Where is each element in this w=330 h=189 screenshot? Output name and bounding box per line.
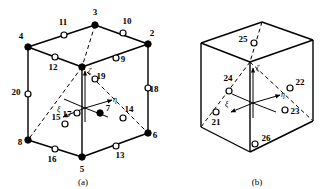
edge-b-top-right: [262, 22, 313, 40]
axis-label-eta-b: η: [281, 90, 285, 99]
panel-b-node-24: [226, 88, 232, 94]
panel-a-edges: [28, 25, 148, 157]
edge-b-back-left: [201, 62, 250, 127]
panel-a-node-label-9: 9: [121, 54, 126, 64]
panel-b-axes: [231, 68, 280, 118]
panel-a-node-label-17: 17: [63, 109, 73, 119]
panel-a-node-9: [113, 55, 119, 61]
panel-a-node-label-11: 11: [59, 17, 68, 27]
panel-a-group: ζ η ξ 234567891011121314151617181920 (a): [12, 7, 160, 187]
panel-a-node-2: [145, 41, 151, 47]
panel-a-node-label-7: 7: [106, 103, 111, 113]
panel-a-node-7: [97, 110, 103, 116]
panel-a-node-label-16: 16: [48, 154, 58, 164]
panel-a-node-5: [79, 154, 85, 160]
panel-b-node-label-26: 26: [262, 133, 272, 143]
panel-a-caption: (a): [78, 177, 88, 187]
panel-a-node-label-5: 5: [80, 164, 85, 174]
panel-a-node-label-2: 2: [150, 28, 155, 38]
panel-a-hidden-edges: [28, 25, 148, 140]
panel-b-node-label-24: 24: [224, 73, 234, 83]
figure-svg: ζ η ξ 234567891011121314151617181920 (a): [0, 0, 330, 189]
panel-a-node-label-15: 15: [52, 112, 62, 122]
axis-label-xi-b: ξ: [225, 100, 229, 109]
panel-b-node-21: [213, 109, 219, 115]
panel-a-node-label-13: 13: [116, 150, 126, 160]
panel-b-node-22: [287, 85, 293, 91]
edge-3-1: [82, 25, 95, 67]
panel-b-node-label-21: 21: [212, 117, 222, 127]
panel-b-node-23: [282, 107, 288, 113]
panel-a-node-4: [25, 44, 31, 50]
panel-a-node-label-3: 3: [93, 7, 98, 17]
panel-b-caption: (b): [252, 177, 263, 187]
panel-a-node-20: [25, 91, 31, 97]
panel-a-node-16: [52, 146, 58, 152]
axis-eta-b: [253, 95, 280, 103]
panel-b-node-label-23: 23: [291, 106, 301, 116]
panel-a-node-15: [62, 121, 68, 127]
figure-container: ζ η ξ 234567891011121314151617181920 (a): [0, 0, 330, 189]
axis-label-eta-a: η: [113, 95, 117, 104]
panel-b-node-26: [252, 141, 258, 147]
axis-neg-xi-b: [253, 103, 276, 112]
panel-a-node-label-12: 12: [49, 62, 59, 72]
edge-b-top-front-right: [250, 40, 313, 62]
panel-a-node-label-8: 8: [18, 137, 23, 147]
panel-a-node-label-18: 18: [150, 84, 160, 94]
panel-a-node-17: [74, 110, 80, 116]
panel-a-node-3: [92, 22, 98, 28]
panel-a-node-10: [120, 30, 126, 36]
panel-a-node-1: [79, 64, 85, 70]
panel-a-node-11: [61, 32, 67, 38]
edge-b-bottom-left: [201, 127, 250, 152]
edge-b-bottom-right: [250, 121, 313, 152]
panel-b-node-label-25: 25: [239, 34, 249, 44]
panel-a-node-8: [25, 137, 31, 143]
panel-b-node-label-22: 22: [296, 77, 306, 87]
panel-a-node-label-4: 4: [19, 31, 24, 41]
panel-a-node-label-19: 19: [97, 71, 107, 81]
panel-a-node-label-10: 10: [123, 16, 133, 26]
axis-label-zeta-a: ζ: [88, 67, 92, 76]
panel-b-node-25: [251, 40, 257, 46]
panel-a-node-label-14: 14: [125, 104, 135, 114]
panel-a-node-label-6: 6: [153, 130, 158, 140]
panel-a-node-label-20: 20: [12, 87, 22, 97]
panel-a-node-14: [120, 115, 126, 121]
edge-b-top-front-left: [201, 43, 250, 62]
axis-label-zeta-b: ζ: [256, 64, 260, 73]
panel-b-group: ζ η ξ 212223242526 (b): [201, 22, 313, 187]
panel-a-node-6: [145, 130, 151, 136]
panel-a-node-12: [52, 54, 58, 60]
panel-a-node-13: [113, 143, 119, 149]
